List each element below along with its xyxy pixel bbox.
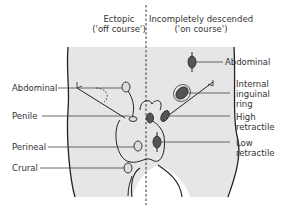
header-ectopic: Ectopic ('off course') xyxy=(84,14,154,34)
label-left-abdominal: Abdominal xyxy=(12,83,57,93)
testis-low-retractile xyxy=(153,136,161,148)
body-silhouette xyxy=(67,47,239,197)
label-high-retractile: High retractile xyxy=(236,112,275,132)
testis-abdominal xyxy=(188,56,196,68)
label-crural: Crural xyxy=(12,163,38,173)
label-low-retractile: Low retractile xyxy=(236,138,275,158)
header-incomplete-line1: Incompletely descended xyxy=(146,14,256,24)
testis-ectopic-penile xyxy=(129,117,137,122)
label-penile: Penile xyxy=(12,111,37,121)
testis-ectopic-perineal xyxy=(134,141,142,151)
header-ectopic-line2: ('off course') xyxy=(84,24,154,34)
header-ectopic-line1: Ectopic xyxy=(84,14,154,24)
label-internal-inguinal-ring: Internal inguinal ring xyxy=(236,79,270,109)
label-right-abdominal: Abdominal xyxy=(225,57,270,67)
header-incomplete-line2: ('on course') xyxy=(146,24,256,34)
label-perineal: Perineal xyxy=(12,142,46,152)
testis-penile-dark xyxy=(147,113,154,123)
header-incompletely-descended: Incompletely descended ('on course') xyxy=(146,14,256,34)
testis-ectopic-abdominal xyxy=(122,82,130,92)
testis-ectopic-crural xyxy=(124,163,132,173)
